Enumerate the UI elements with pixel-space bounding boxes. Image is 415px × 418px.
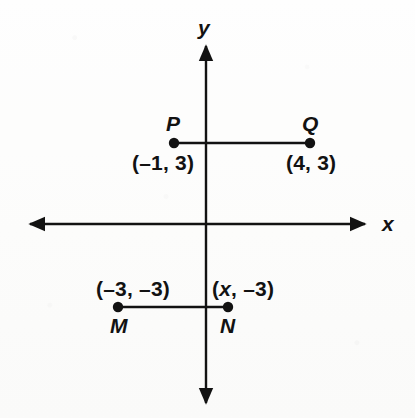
point-m-coordinates: (–3, –3) [96, 278, 170, 299]
point-q-dot [305, 138, 315, 148]
point-q-coordinates: (4, 3) [286, 152, 336, 173]
point-m-label: M [110, 315, 128, 336]
segment-pq [169, 138, 315, 148]
point-q-label: Q [302, 113, 318, 134]
point-p-coordinates: (–1, 3) [132, 152, 194, 173]
point-p-label: P [166, 113, 180, 134]
point-n-label: N [220, 315, 235, 336]
y-axis-label: y [198, 17, 210, 38]
n-coord-variable: x [219, 277, 231, 300]
x-axis-label: x [382, 213, 394, 234]
point-m-dot [113, 302, 123, 312]
point-n-coordinates: (x, –3) [212, 278, 274, 299]
coordinate-plane-figure: y x P Q M N (–1, 3) (4, 3) (–3, –3) (x, … [0, 0, 415, 418]
point-n-dot [223, 302, 233, 312]
point-p-dot [169, 138, 179, 148]
plot-canvas [0, 0, 415, 418]
n-coord-remainder: , –3) [231, 277, 274, 300]
segment-mn [113, 302, 233, 312]
